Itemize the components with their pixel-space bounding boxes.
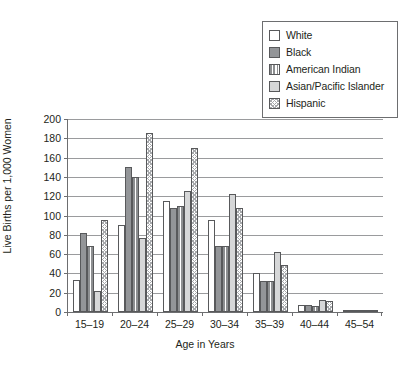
y-axis-tick-label: 40	[49, 268, 61, 278]
legend-item-white[interactable]: White	[269, 27, 391, 44]
y-axis-tick-label: 20	[49, 288, 61, 298]
bar	[118, 225, 125, 312]
x-axis-tick	[202, 312, 203, 316]
x-axis-tick-label: 25–29	[157, 318, 202, 330]
x-axis-tick	[112, 312, 113, 316]
bar	[132, 177, 139, 312]
y-axis-tick-label: 160	[43, 153, 61, 163]
bar	[87, 246, 94, 312]
bar	[101, 220, 108, 312]
y-axis-tick-label: 180	[43, 133, 61, 143]
y-axis-tick-label: 120	[43, 191, 61, 201]
bar-group	[113, 119, 158, 312]
bar	[80, 233, 87, 312]
bar	[215, 246, 222, 312]
legend-swatch-icon	[269, 64, 280, 75]
legend-item-label: Asian/Pacific Islander	[286, 81, 384, 92]
bar	[229, 194, 236, 312]
legend-item-label: American Indian	[286, 64, 360, 75]
legend-item-label: Black	[286, 47, 311, 58]
y-axis-tick-label: 60	[49, 249, 61, 259]
bar	[281, 265, 288, 312]
legend-item-label: Hispanic	[286, 98, 325, 109]
legend-item-black[interactable]: Black	[269, 44, 391, 61]
x-axis-tick	[67, 312, 68, 316]
bar-group	[338, 119, 383, 312]
bar	[305, 305, 312, 312]
chart-legend: WhiteBlackAmerican IndianAsian/Pacific I…	[262, 21, 398, 118]
y-axis-tick-label: 0	[55, 307, 61, 317]
x-axis-tick-label: 35–39	[247, 318, 292, 330]
bar	[326, 301, 333, 312]
legend-item-label: White	[286, 30, 312, 41]
bar	[236, 208, 243, 312]
bar	[177, 206, 184, 312]
bar-group	[293, 119, 338, 312]
bar	[253, 273, 260, 312]
x-axis-tick	[157, 312, 158, 316]
bar	[94, 291, 101, 312]
bar	[125, 167, 132, 312]
x-axis-tick	[337, 312, 338, 316]
y-axis-tick-label: 80	[49, 230, 61, 240]
x-axis-tick-marks	[67, 312, 382, 316]
x-axis-tick-label: 20–24	[112, 318, 157, 330]
bar-group	[158, 119, 203, 312]
bar	[222, 246, 229, 312]
bar-group	[203, 119, 248, 312]
legend-item-asian-pacific-islander[interactable]: Asian/Pacific Islander	[269, 78, 391, 95]
bar	[298, 305, 305, 312]
y-axis-tick-label: 100	[43, 211, 61, 221]
legend-swatch-icon	[269, 30, 280, 41]
x-axis-tick-label: 45–54	[337, 318, 382, 330]
y-axis-tick-label: 200	[43, 114, 61, 124]
bar	[163, 201, 170, 312]
bar	[191, 148, 198, 312]
bar-groups	[68, 119, 383, 312]
x-axis-tick	[247, 312, 248, 316]
x-axis-tick	[381, 312, 382, 316]
legend-swatch-icon	[269, 81, 280, 92]
bar-group	[68, 119, 113, 312]
bar	[319, 300, 326, 312]
x-axis-tick-labels: 15–1920–2425–2930–3435–3940–4445–54	[67, 318, 382, 330]
y-axis-title: Live Births per 1,000 Women	[1, 56, 13, 316]
bar	[73, 280, 80, 312]
bar	[184, 191, 191, 312]
bar-group	[248, 119, 293, 312]
plot-area: 020406080100120140160180200	[67, 119, 383, 313]
legend-item-hispanic[interactable]: Hispanic	[269, 95, 391, 112]
bar	[208, 220, 215, 312]
bar	[267, 281, 274, 312]
x-axis-tick-label: 40–44	[292, 318, 337, 330]
bar-chart-figure: WhiteBlackAmerican IndianAsian/Pacific I…	[0, 0, 410, 369]
bar	[170, 208, 177, 312]
x-axis-tick	[292, 312, 293, 316]
legend-item-american-indian[interactable]: American Indian	[269, 61, 391, 78]
bar	[260, 281, 267, 312]
bar	[146, 133, 153, 312]
x-axis-title: Age in Years	[0, 338, 410, 350]
legend-swatch-icon	[269, 98, 280, 109]
y-axis-tick-label: 140	[43, 172, 61, 182]
x-axis-tick-label: 30–34	[202, 318, 247, 330]
x-axis-tick-label: 15–19	[67, 318, 112, 330]
bar	[274, 252, 281, 312]
legend-swatch-icon	[269, 47, 280, 58]
bar	[139, 238, 146, 312]
